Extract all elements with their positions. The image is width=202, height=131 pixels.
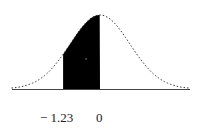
- tick-label-zero: 0: [96, 110, 103, 126]
- shaded-area: [63, 15, 100, 89]
- density-curve: [12, 15, 189, 88]
- tick-label-left: − 1.23: [40, 110, 73, 126]
- center-dot: [85, 58, 87, 60]
